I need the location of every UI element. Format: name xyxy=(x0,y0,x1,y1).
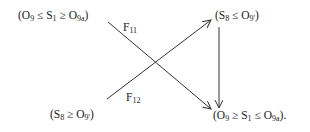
subscript: 11 xyxy=(129,26,137,35)
arrow-f11 xyxy=(108,22,211,109)
text: ≤ S xyxy=(34,9,52,21)
subscript: 9a xyxy=(77,14,85,23)
text: ≤ O xyxy=(252,109,272,121)
text: (S xyxy=(215,9,225,21)
node-bottom-left: (S8 ≥ O9') xyxy=(50,109,94,121)
text: ≥ O xyxy=(57,9,77,21)
text: (S xyxy=(50,108,60,120)
text: ) xyxy=(85,9,89,21)
text: ≥ S xyxy=(229,109,247,121)
node-bottom-right: (O9 ≥ S1 ≤ O9a). xyxy=(213,110,286,122)
subscript: 12 xyxy=(132,96,140,105)
text: ) xyxy=(255,9,259,21)
text: ) xyxy=(90,108,94,120)
text: ≥ O xyxy=(64,108,84,120)
edge-label-f11: F11 xyxy=(123,22,137,35)
node-top-left: (O9 ≤ S1 ≥ O9a) xyxy=(18,10,88,22)
subscript: 9a xyxy=(272,114,280,123)
text: ≤ O xyxy=(229,9,249,21)
edge-label-f12: F12 xyxy=(126,92,140,105)
text: (O xyxy=(18,9,30,21)
text: ). xyxy=(280,109,287,121)
text: (O xyxy=(213,109,225,121)
node-top-right: (S8 ≤ O9') xyxy=(215,10,259,22)
